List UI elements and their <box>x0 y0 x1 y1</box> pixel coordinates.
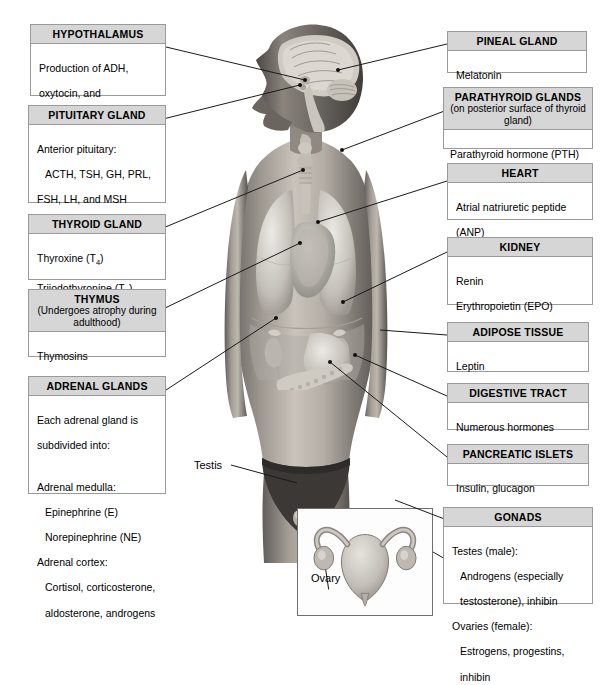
box-pituitary[interactable]: PITUITARY GLAND Anterior pituitary: ACTH… <box>28 105 166 203</box>
box-pineal-title: PINEAL GLAND <box>448 32 586 51</box>
box-thyroid[interactable]: THYROID GLAND Thyroxine (T4) Triiodothyr… <box>28 214 166 280</box>
box-pancreatic-islets[interactable]: PANCREATIC ISLETS Insulin, glucagon <box>447 444 589 486</box>
box-kidney-title: KIDNEY <box>448 238 592 257</box>
box-hypothalamus[interactable]: HYPOTHALAMUS Production of ADH, oxytocin… <box>30 24 166 96</box>
box-pineal[interactable]: PINEAL GLAND Melatonin <box>447 31 587 73</box>
box-adipose-title: ADIPOSE TISSUE <box>448 323 588 342</box>
human-body-figure <box>206 18 406 578</box>
box-heart[interactable]: HEART Atrial natriuretic peptide (ANP) (… <box>447 163 593 220</box>
ovary-label: Ovary <box>311 572 340 584</box>
box-parathyroid-subtitle: (on posterior surface of thyroid gland) <box>446 103 590 126</box>
box-digestive-tract[interactable]: DIGESTIVE TRACT Numerous hormones (detai… <box>447 383 589 430</box>
box-heart-title: HEART <box>448 164 592 183</box>
box-thyroid-title: THYROID GLAND <box>29 215 165 234</box>
box-adrenal-body: Each adrenal gland is subdivided into: A… <box>29 396 165 637</box>
box-parathyroid[interactable]: PARATHYROID GLANDS (on posterior surface… <box>443 87 593 149</box>
box-gonads[interactable]: GONADS Testes (male): Androgens (especia… <box>443 507 593 604</box>
box-gonads-title: GONADS <box>444 508 592 527</box>
box-adrenal-title: ADRENAL GLANDS <box>29 377 165 396</box>
box-pancreatic-title: PANCREATIC ISLETS <box>448 445 588 464</box>
thyroxine-line: Thyroxine (T4) <box>37 252 158 270</box>
box-thymus-title: THYMUS (Undergoes atrophy during adultho… <box>29 290 165 332</box>
box-kidney[interactable]: KIDNEY Renin Erythropoietin (EPO) Calcit… <box>447 237 593 305</box>
uterus-ovaries-illustration <box>298 509 432 615</box>
box-digestive-title: DIGESTIVE TRACT <box>448 384 588 403</box>
box-thymus-subtitle: (Undergoes atrophy during adulthood) <box>31 305 163 328</box>
box-thymus[interactable]: THYMUS (Undergoes atrophy during adultho… <box>28 289 166 357</box>
box-hypothalamus-title: HYPOTHALAMUS <box>31 25 165 44</box>
female-reproductive-inset <box>297 508 433 616</box>
box-gonads-body: Testes (male): Androgens (especially tes… <box>444 527 592 685</box>
testis-label: Testis <box>194 459 222 471</box>
box-adrenal-glands[interactable]: ADRENAL GLANDS Each adrenal gland is sub… <box>28 376 166 494</box>
box-pituitary-title: PITUITARY GLAND <box>29 106 165 125</box>
box-parathyroid-title: PARATHYROID GLANDS (on posterior surface… <box>444 88 592 130</box>
box-thymus-body: Thymosins <box>29 332 165 380</box>
box-pancreatic-body: Insulin, glucagon <box>448 464 588 512</box>
box-adipose[interactable]: ADIPOSE TISSUE Leptin Resistin <box>447 322 589 372</box>
